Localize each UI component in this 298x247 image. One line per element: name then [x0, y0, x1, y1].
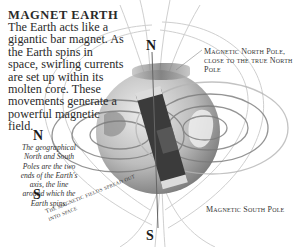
spin-ring	[132, 63, 190, 80]
magnetic-south-caption: Magnetic South Pole	[206, 205, 298, 214]
geographic-south-label: S	[33, 187, 41, 203]
globe-south-label: S	[146, 228, 154, 244]
globe-north-label: N	[146, 38, 156, 54]
geographic-north-label: N	[33, 128, 43, 144]
magnetic-north-caption: Magnetic North Pole, close to the true N…	[204, 47, 298, 74]
intro-paragraph: The Earth acts like a gigantic bar magne…	[8, 21, 126, 133]
